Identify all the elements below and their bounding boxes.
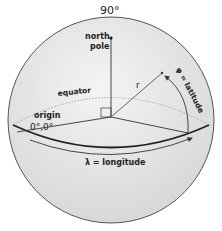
label-origin: origin bbox=[34, 111, 61, 120]
label-north: north bbox=[85, 32, 110, 41]
north-pole-dot bbox=[109, 36, 112, 39]
sphere-diagram: 90° north pole equator r φ = latitude or… bbox=[0, 0, 222, 231]
label-radius: r bbox=[136, 80, 140, 90]
label-origin-coords: 0°,0° bbox=[30, 122, 53, 132]
point-marker bbox=[161, 72, 163, 74]
label-longitude: λ = longitude bbox=[85, 158, 146, 167]
label-pole: pole bbox=[90, 42, 110, 51]
label-90-degrees: 90° bbox=[100, 4, 120, 17]
